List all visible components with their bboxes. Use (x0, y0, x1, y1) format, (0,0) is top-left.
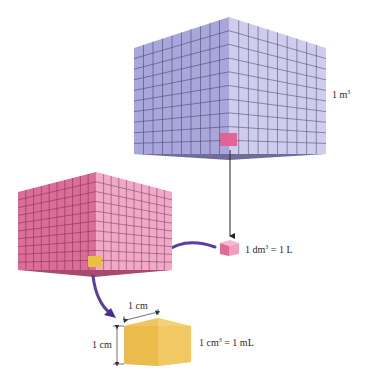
label-text: 1 m (332, 89, 347, 100)
cubic-meter-cube (134, 17, 326, 160)
dm3-small-cube (220, 240, 239, 256)
cubic-decimeter-cube (18, 172, 172, 277)
highlighted-cm3-cell (88, 256, 101, 267)
label-superscript: 3 (347, 89, 350, 95)
arrow-dm3-to-pink-cube (165, 243, 215, 252)
cubic-centimeter-cube (124, 318, 191, 366)
label-cubic-centimeter: 1 cm3 = 1 mL (199, 337, 254, 349)
label-suffix: = 1 mL (222, 337, 254, 348)
highlighted-dm3-cell (220, 133, 237, 146)
label-cubic-meter: 1 m3 (332, 89, 350, 101)
label-suffix: = 1 L (268, 244, 292, 255)
volume-units-diagram (0, 0, 368, 389)
dimension-height-label: 1 cm (92, 339, 112, 351)
label-text: 1 dm (245, 244, 265, 255)
label-text: 1 cm (199, 337, 219, 348)
dimension-width-label: 1 cm (128, 300, 148, 312)
arrow-pink-to-cm3 (93, 276, 110, 313)
label-cubic-decimeter: 1 dm3 = 1 L (245, 244, 293, 256)
